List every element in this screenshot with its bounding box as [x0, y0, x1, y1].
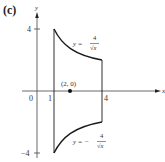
point-2-0 — [68, 89, 72, 93]
point-label: (2, 0) — [61, 80, 77, 88]
y-axis-label: y — [34, 4, 39, 12]
x-tick-label-1: 1 — [48, 94, 52, 103]
lower-curve-equation: y = − 4 √x — [72, 132, 106, 149]
upper-eq-lhs: y = — [72, 40, 83, 48]
upper-eq-denominator: √x — [90, 44, 97, 51]
diagram-canvas: (c) y x 4 −4 0 1 4 (2, 0) y = 4 √x y = −… — [0, 0, 165, 162]
x-axis-label: x — [161, 87, 165, 95]
upper-curve-equation: y = 4 √x — [72, 34, 99, 51]
x-tick-label-4: 4 — [104, 94, 108, 103]
x-axis-arrow-icon — [155, 89, 161, 93]
y-tick-label-4: 4 — [27, 25, 31, 34]
upper-eq-numerator: 4 — [93, 34, 97, 41]
lower-eq-numerator: 4 — [100, 132, 104, 139]
lower-eq-denominator: √x — [97, 142, 104, 149]
y-tick-label-neg4: −4 — [21, 149, 30, 158]
panel-label: (c) — [3, 3, 16, 17]
origin-label: 0 — [29, 94, 33, 103]
lower-eq-lhs: y = − — [72, 138, 89, 146]
y-axis-arrow-icon — [35, 12, 39, 18]
